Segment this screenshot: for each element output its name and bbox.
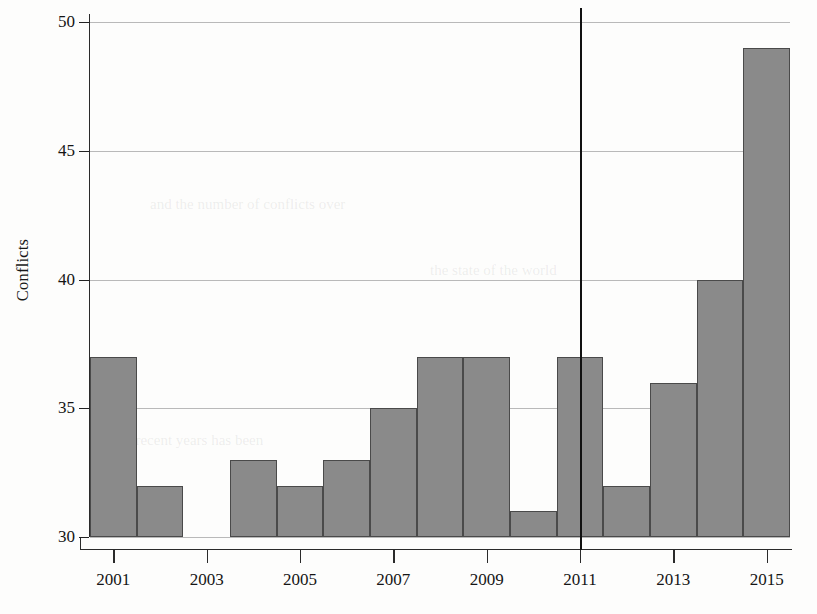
gridline: [90, 537, 790, 538]
bar: [137, 486, 184, 538]
y-tick-label: 30: [58, 527, 75, 547]
gridline: [90, 280, 790, 281]
x-tick-label: 2005: [283, 570, 317, 590]
x-tick-mark: [487, 550, 488, 563]
bar: [650, 383, 697, 538]
x-tick-label: 2013: [656, 570, 690, 590]
y-tick-mark: [79, 151, 89, 152]
bar-chart-figure: and the number of conflicts over in rece…: [0, 0, 817, 614]
x-tick-label: 2011: [563, 570, 596, 590]
y-tick-label: 35: [58, 398, 75, 418]
y-axis-label: Conflicts: [8, 0, 38, 540]
x-tick-mark: [207, 550, 208, 563]
x-tick-mark: [300, 550, 301, 563]
bar: [603, 486, 650, 538]
y-tick-label: 50: [58, 12, 75, 32]
bar: [230, 460, 277, 537]
vertical-reference-line: [580, 8, 582, 550]
bar: [463, 357, 510, 537]
x-axis-line: [80, 549, 792, 550]
bar: [697, 280, 744, 538]
y-tick-mark: [79, 408, 89, 409]
y-tick-mark: [79, 280, 89, 281]
x-tick-mark: [113, 550, 114, 563]
x-tick-label: 2001: [96, 570, 130, 590]
x-tick-mark: [673, 550, 674, 563]
x-tick-label: 2003: [190, 570, 224, 590]
bar: [370, 408, 417, 537]
bar: [277, 486, 324, 538]
plot-area: 3035404550 20012003200520072009201120132…: [90, 22, 790, 537]
x-tick-label: 2009: [470, 570, 504, 590]
x-tick-mark: [580, 550, 581, 563]
bar: [323, 460, 370, 537]
y-tick-label: 45: [58, 141, 75, 161]
gridline: [90, 151, 790, 152]
x-tick-mark: [767, 550, 768, 563]
bar: [510, 511, 557, 537]
x-tick-label: 2007: [376, 570, 410, 590]
bar: [743, 48, 790, 537]
y-tick-mark: [79, 537, 89, 538]
bar: [417, 357, 464, 537]
y-tick-mark: [79, 22, 89, 23]
x-tick-label: 2015: [750, 570, 784, 590]
x-tick-mark: [393, 550, 394, 563]
y-axis-label-text: Conflicts: [13, 239, 33, 301]
y-tick-label: 40: [58, 270, 75, 290]
bar: [90, 357, 137, 537]
x-axis-left-cap: [80, 537, 81, 550]
gridline: [90, 22, 790, 23]
